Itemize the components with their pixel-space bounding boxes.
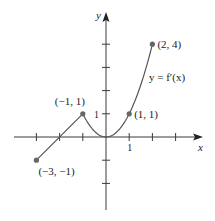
y-tick-label: 1 — [94, 109, 99, 120]
curves — [36, 44, 152, 160]
parabola-segment — [83, 44, 153, 137]
chart: xy11(−3, −1)(−1, 1)(1, 1)(2, 4)y = f′(x) — [0, 0, 215, 221]
point-label: (−3, −1) — [38, 165, 75, 178]
data-point — [127, 111, 132, 116]
data-point — [34, 158, 39, 163]
data-point — [150, 42, 155, 47]
point-label: (−1, 1) — [55, 95, 85, 108]
y-axis-label: y — [95, 9, 101, 21]
point-label: (1, 1) — [134, 108, 158, 121]
x-axis-label: x — [197, 141, 203, 153]
x-tick-label: 1 — [127, 142, 132, 153]
data-point — [80, 111, 85, 116]
curve-annotation: y = f′(x) — [149, 71, 185, 84]
point-label: (2, 4) — [157, 38, 181, 51]
labels: xy11(−3, −1)(−1, 1)(1, 1)(2, 4)y = f′(x) — [38, 9, 203, 178]
